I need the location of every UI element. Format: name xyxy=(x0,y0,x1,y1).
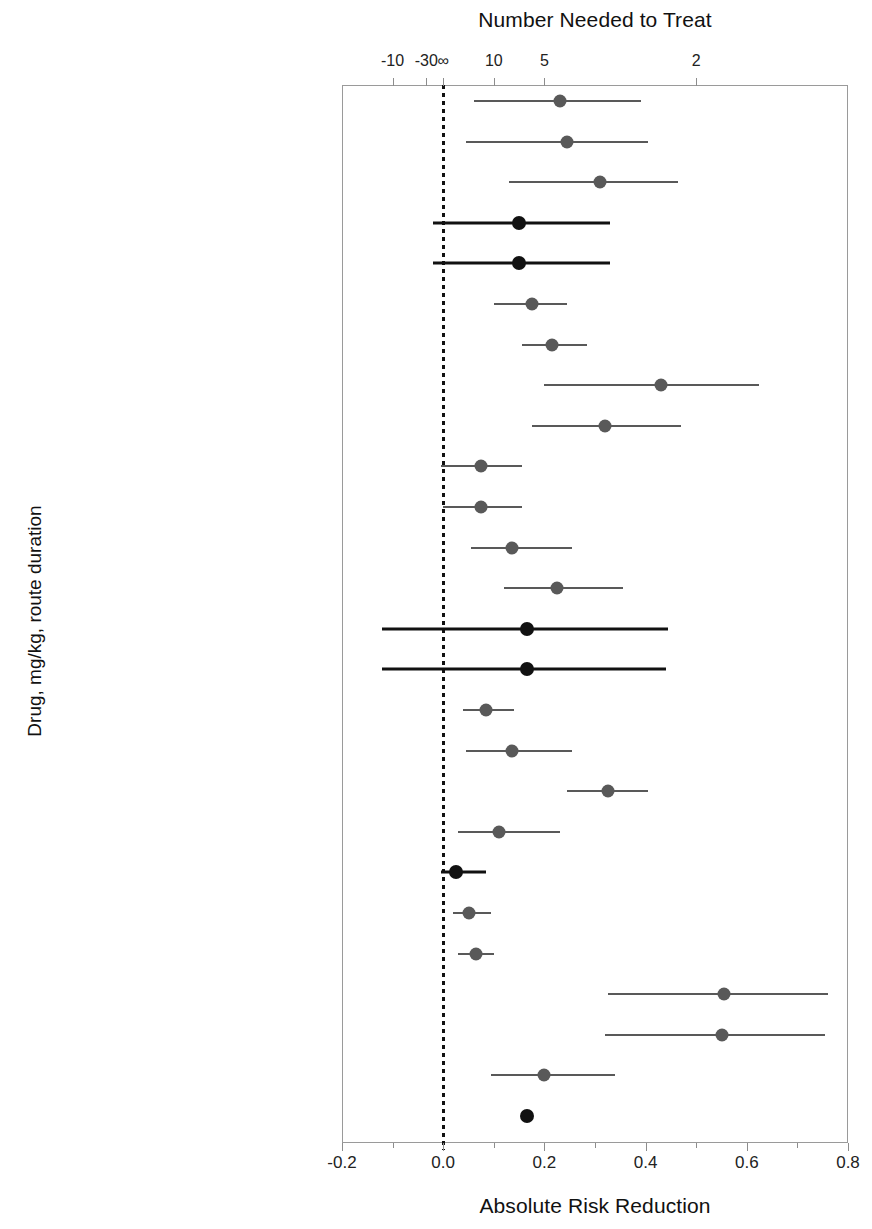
chart-bottom-title: Absolute Risk Reduction xyxy=(342,1194,848,1218)
data-point-marker xyxy=(594,176,607,189)
nnt-tick xyxy=(696,78,697,86)
confidence-interval-line xyxy=(466,141,648,143)
confidence-interval-line xyxy=(491,1074,615,1076)
data-point-marker xyxy=(449,865,463,879)
data-point-marker xyxy=(654,379,667,392)
arr-minor-tick xyxy=(494,1143,495,1148)
zero-reference-line xyxy=(442,85,445,1150)
data-point-marker xyxy=(505,541,518,554)
data-point-marker xyxy=(520,1109,534,1123)
data-point-marker xyxy=(520,662,534,676)
arr-tick-label: -0.2 xyxy=(327,1153,356,1173)
data-point-marker xyxy=(475,460,488,473)
arr-tick xyxy=(342,1143,343,1151)
data-point-marker xyxy=(553,95,566,108)
data-point-marker xyxy=(512,256,526,270)
data-point-marker xyxy=(599,419,612,432)
data-point-marker xyxy=(718,988,731,1001)
data-point-marker xyxy=(475,501,488,514)
nnt-tick xyxy=(494,78,495,86)
y-axis-title: Drug, mg/kg, route duration xyxy=(24,401,46,841)
arr-tick-label: 0.6 xyxy=(735,1153,759,1173)
data-point-marker xyxy=(525,298,538,311)
data-point-marker xyxy=(480,704,493,717)
nnt-tick-label: 10 xyxy=(485,52,503,70)
arr-minor-tick xyxy=(595,1143,596,1148)
data-point-marker xyxy=(551,582,564,595)
nnt-tick xyxy=(544,78,545,86)
nnt-tick-label: 2 xyxy=(692,52,701,70)
arr-tick-label: 0.4 xyxy=(634,1153,658,1173)
data-point-marker xyxy=(601,785,614,798)
data-point-marker xyxy=(492,825,505,838)
nnt-tick xyxy=(426,78,427,86)
data-point-marker xyxy=(520,622,534,636)
arr-tick-label: 0.2 xyxy=(533,1153,557,1173)
nnt-tick xyxy=(443,78,444,86)
plot-frame xyxy=(342,85,848,1143)
nnt-axis xyxy=(342,78,848,86)
data-point-marker xyxy=(470,947,483,960)
arr-tick-label: 0.0 xyxy=(431,1153,455,1173)
data-point-marker xyxy=(715,1028,728,1041)
data-point-marker xyxy=(538,1069,551,1082)
chart-top-title: Number Needed to Treat xyxy=(342,8,848,32)
data-point-marker xyxy=(505,744,518,757)
data-point-marker xyxy=(561,135,574,148)
confidence-interval-line xyxy=(466,750,572,752)
nnt-tick xyxy=(393,78,394,86)
confidence-interval-line xyxy=(458,831,559,833)
nnt-tick-label: ∞ xyxy=(437,52,448,70)
nnt-tick-label: 5 xyxy=(540,52,549,70)
arr-minor-tick xyxy=(393,1143,394,1148)
arr-tick-label: 0.8 xyxy=(836,1153,860,1173)
confidence-interval-line xyxy=(471,547,572,549)
data-point-marker xyxy=(545,338,558,351)
arr-axis xyxy=(342,1143,848,1151)
arr-tick xyxy=(747,1143,748,1151)
nnt-tick-label: -30 xyxy=(415,52,438,70)
arr-tick xyxy=(544,1143,545,1151)
arr-minor-tick xyxy=(797,1143,798,1148)
arr-tick xyxy=(646,1143,647,1151)
arr-tick xyxy=(848,1143,849,1151)
confidence-interval-line xyxy=(441,871,487,874)
arr-minor-tick xyxy=(696,1143,697,1148)
nnt-tick-label: -10 xyxy=(381,52,404,70)
data-point-marker xyxy=(512,216,526,230)
arr-tick xyxy=(443,1143,444,1151)
data-point-marker xyxy=(462,907,475,920)
confidence-interval-line xyxy=(544,384,759,386)
